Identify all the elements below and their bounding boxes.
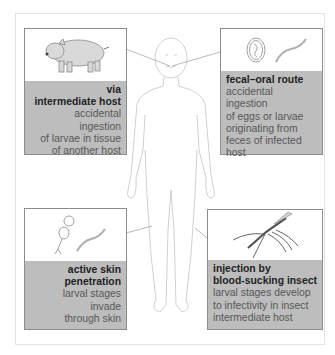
- route-description: invade: [30, 301, 121, 313]
- route-title: injection by: [213, 263, 317, 275]
- route-description: larval stages: [30, 288, 121, 300]
- route-title: intermediate host: [30, 96, 121, 108]
- route-caption: via intermediate host accidental ingesti…: [25, 81, 126, 154]
- pig-icon: [25, 29, 126, 82]
- human-body-outline: [128, 38, 215, 312]
- route-caption: active skin penetration larval stages in…: [25, 261, 126, 329]
- route-description: through skin: [30, 313, 121, 325]
- route-box-insect-injection: injection by blood-sucking insect larval…: [207, 209, 323, 330]
- cercaria-illustration: [25, 209, 126, 262]
- route-title: penetration: [30, 276, 121, 288]
- connector-skin: [126, 226, 152, 233]
- route-caption: fecal–oral route accidental ingestion of…: [221, 71, 322, 154]
- route-caption: injection by blood-sucking insect larval…: [208, 260, 322, 329]
- route-box-intermediate-host: via intermediate host accidental ingesti…: [24, 28, 127, 155]
- egg-and-larva-icon: [221, 29, 322, 72]
- connector-intermediate-host: [126, 49, 170, 66]
- cercaria-and-larva-icon: [25, 209, 126, 262]
- route-box-fecal-oral: fecal–oral route accidental ingestion of…: [220, 28, 323, 155]
- pig-illustration: [25, 29, 126, 82]
- route-title: fecal–oral route: [226, 74, 317, 86]
- route-description: host: [226, 147, 317, 159]
- route-title: active skin: [30, 264, 121, 276]
- route-description: of eggs or larvae: [226, 111, 317, 123]
- route-title: via: [30, 84, 121, 96]
- route-description: of another host: [30, 145, 121, 157]
- mosquito-illustration: [208, 210, 322, 262]
- route-description: larval stages develop: [213, 287, 317, 299]
- route-description: feces of infected: [226, 135, 317, 147]
- egg-larva-illustration: [221, 29, 322, 72]
- connector-fecal-oral: [172, 52, 220, 66]
- route-description: accidental ingestion: [30, 108, 121, 132]
- route-box-skin-penetration: active skin penetration larval stages in…: [24, 208, 127, 330]
- connector-lines: [126, 49, 220, 238]
- route-description: of larvae in tissue: [30, 133, 121, 145]
- route-description: to infectivity in insect: [213, 300, 317, 312]
- route-description: accidental ingestion: [226, 86, 317, 110]
- route-description: intermediate host: [213, 312, 317, 324]
- route-description: originating from: [226, 123, 317, 135]
- connector-insect: [195, 228, 207, 238]
- mosquito-icon: [208, 210, 322, 262]
- route-title: blood-sucking insect: [213, 275, 317, 287]
